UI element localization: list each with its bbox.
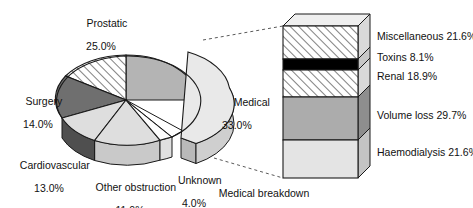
- pie-label-surgery: Surgery 14.0%: [4, 84, 72, 153]
- bar-label-renal: Renal 18.9%: [377, 71, 473, 83]
- bar-segment-miscellaneous: [283, 26, 358, 59]
- pie-label-medical-name: Medical: [234, 96, 270, 108]
- pie-label-prostatic: Prostatic 25.0%: [60, 6, 142, 75]
- pie-label-surgery-percent: 14.0%: [4, 119, 72, 131]
- bar-segment-volume-loss: [283, 97, 358, 140]
- pie-label-prostatic-percent: 25.0%: [60, 41, 142, 53]
- bar-segment-renal: [283, 70, 358, 97]
- bar-segment-toxins: [283, 59, 358, 70]
- bar-label-haemodialysis: Haemodialysis 21.6%: [377, 147, 473, 159]
- caption-medical-breakdown: Medical breakdown: [214, 188, 314, 200]
- pie-wall-unknown: [160, 137, 172, 160]
- leader-line-top: [203, 26, 283, 40]
- bar-label-volume-loss: Volume loss 29.7%: [377, 110, 473, 122]
- bar-segment-haemodialysis: [283, 140, 358, 178]
- pie-label-medical-percent: 33.0%: [222, 120, 282, 132]
- figure-root: Prostatic 25.0% Surgery 14.0% Cardiovasc…: [0, 0, 473, 208]
- pie-label-unknown-name: Unknown: [178, 174, 222, 186]
- stacked-bar-chart: [283, 14, 370, 178]
- pie-label-prostatic-name: Prostatic: [86, 17, 127, 29]
- pie-label-medical: Medical 33.0%: [222, 85, 282, 154]
- pie-label-cardiovascular-name: Cardiovascular: [20, 159, 90, 171]
- bar-side-faces: [358, 14, 370, 178]
- pie-label-surgery-name: Surgery: [25, 95, 62, 107]
- bar-top-face: [283, 14, 370, 26]
- pie-label-unknown: Unknown 4.0%: [163, 163, 225, 208]
- bar-label-toxins: Toxins 8.1%: [377, 52, 473, 64]
- bar-label-miscellaneous: Miscellaneous 21.6%: [377, 31, 473, 43]
